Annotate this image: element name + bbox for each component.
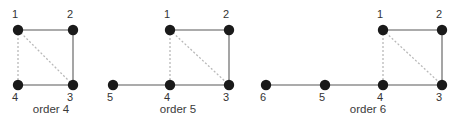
graph-panel-2: 12345order 5 bbox=[107, 8, 234, 115]
node-label-5: 5 bbox=[107, 91, 113, 103]
node-label-3: 3 bbox=[67, 91, 73, 103]
panel-caption: order 4 bbox=[33, 103, 70, 115]
graph-node-3 bbox=[68, 80, 78, 90]
graph-node-2 bbox=[68, 25, 78, 35]
graph-node-4 bbox=[165, 80, 175, 90]
figure-canvas: 1234order 412345order 5123456order 6 bbox=[0, 0, 457, 128]
graph-sequence-figure: 1234order 412345order 5123456order 6 bbox=[0, 0, 457, 128]
node-label-4: 4 bbox=[377, 91, 383, 103]
node-label-2: 2 bbox=[223, 8, 229, 20]
graph-node-5 bbox=[320, 80, 330, 90]
graph-node-5 bbox=[108, 80, 118, 90]
graph-node-1 bbox=[165, 25, 175, 35]
graph-node-4 bbox=[13, 80, 23, 90]
graph-node-3 bbox=[437, 80, 447, 90]
graph-node-6 bbox=[261, 80, 271, 90]
graph-node-1 bbox=[13, 25, 23, 35]
panel-caption: order 5 bbox=[160, 103, 196, 115]
graph-node-4 bbox=[378, 80, 388, 90]
graph-panel-1: 1234order 4 bbox=[12, 8, 78, 115]
node-label-4: 4 bbox=[12, 91, 18, 103]
node-label-4: 4 bbox=[164, 91, 170, 103]
node-label-1: 1 bbox=[164, 8, 170, 20]
graph-node-3 bbox=[224, 80, 234, 90]
graph-panel-3: 123456order 6 bbox=[260, 8, 447, 115]
node-label-1: 1 bbox=[377, 8, 383, 20]
panel-caption: order 6 bbox=[350, 103, 386, 115]
edge-1-3-dashed bbox=[18, 30, 73, 85]
node-label-6: 6 bbox=[260, 91, 266, 103]
graph-node-2 bbox=[437, 25, 447, 35]
graph-node-2 bbox=[224, 25, 234, 35]
node-label-3: 3 bbox=[223, 91, 229, 103]
edge-1-3-dashed bbox=[383, 30, 442, 85]
node-label-1: 1 bbox=[12, 8, 18, 20]
node-label-3: 3 bbox=[436, 91, 442, 103]
node-label-2: 2 bbox=[436, 8, 442, 20]
node-label-5: 5 bbox=[319, 91, 325, 103]
graph-node-1 bbox=[378, 25, 388, 35]
edge-1-3-dashed bbox=[170, 30, 229, 85]
node-label-2: 2 bbox=[67, 8, 73, 20]
